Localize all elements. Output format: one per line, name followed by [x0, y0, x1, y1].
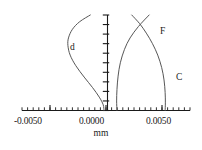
y-axis-ticks [103, 15, 109, 111]
curves-group [68, 15, 166, 111]
curve-label-C: C [176, 72, 182, 82]
aberration-curve-d [68, 15, 104, 111]
truncated-caption-strip [0, 141, 202, 150]
x-tick-label-zero: 0.0000 [79, 116, 104, 126]
x-tick-label-positive: 0.0050 [146, 116, 171, 126]
x-tick-label-negative: -0.0050 [14, 116, 42, 126]
longitudinal-aberration-plot: -0.0050 0.0000 0.0050 mm d F C [0, 0, 202, 150]
x-axis-units-label: mm [0, 128, 202, 138]
curve-label-F: F [160, 26, 165, 36]
curve-label-d: d [70, 42, 75, 52]
